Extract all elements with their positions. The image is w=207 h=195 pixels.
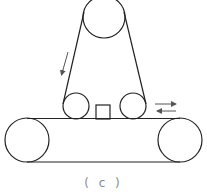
conveyor-left-pulley [5, 118, 49, 162]
left-contact-roller [63, 93, 89, 119]
figure-caption: ( c ) [0, 176, 207, 190]
belt-right-strand [124, 12, 146, 104]
workpiece-block [96, 105, 110, 119]
belt-sander-diagram [0, 0, 207, 195]
conveyor-right-pulley [158, 118, 202, 162]
belt-direction-arrow-icon [62, 52, 69, 75]
right-contact-roller [120, 93, 146, 119]
top-pulley [83, 0, 125, 38]
